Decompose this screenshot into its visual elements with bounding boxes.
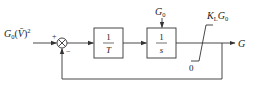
saturation-upper-label: KLG0 xyxy=(206,10,228,22)
plus-sign: + xyxy=(52,32,57,41)
block-2-numerator: 1 xyxy=(159,32,164,42)
output-label: G xyxy=(238,38,245,49)
minus-sign: − xyxy=(66,47,71,56)
input-label: G0(V̄)2 xyxy=(4,27,31,40)
block-diagram: G0(V̄)2 + − 1 T 1 s G0 KLG0 0 G xyxy=(0,0,264,85)
block-2-side-input-label: G0 xyxy=(155,6,165,18)
saturation-lower-label: 0 xyxy=(189,63,194,73)
block-2-denominator: s xyxy=(160,45,164,55)
block-1-numerator: 1 xyxy=(106,32,111,42)
